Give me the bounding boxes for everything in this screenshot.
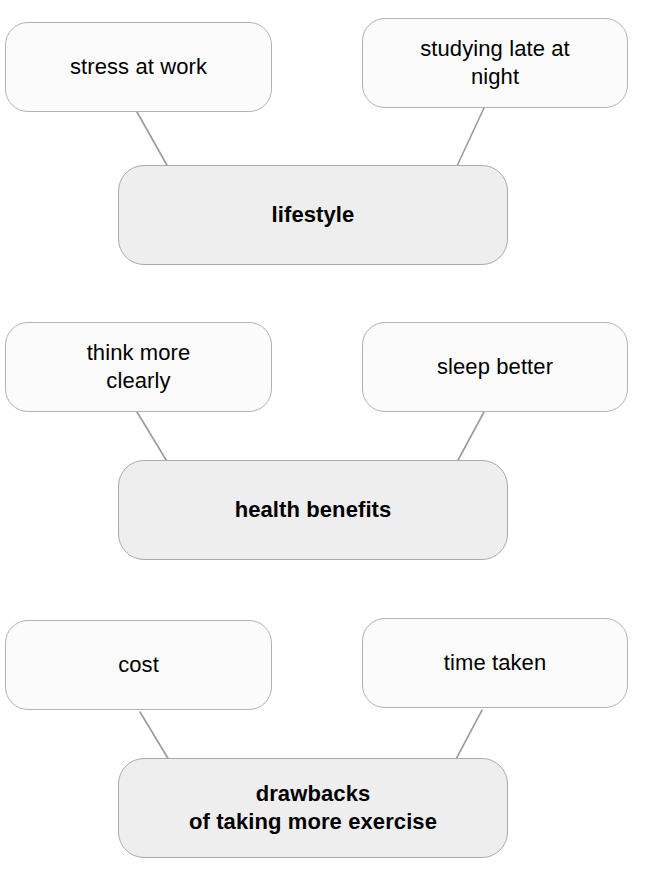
node-label: stress at work: [22, 53, 255, 81]
node-think-more-clearly[interactable]: think more clearly: [5, 322, 272, 412]
node-time-taken[interactable]: time taken: [362, 618, 628, 708]
cluster-health-benefits: think more clearly sleep better health b…: [0, 300, 645, 598]
node-health-benefits[interactable]: health benefits: [118, 460, 508, 560]
node-label: health benefits: [139, 496, 487, 524]
node-sleep-better[interactable]: sleep better: [362, 322, 628, 412]
node-cost[interactable]: cost: [5, 620, 272, 710]
cluster-lifestyle: stress at work studying late at night li…: [0, 0, 645, 300]
mind-map-diagram: stress at work studying late at night li…: [0, 0, 645, 885]
node-label: time taken: [379, 649, 611, 677]
node-label: cost: [22, 651, 255, 679]
node-studying-late-at-night[interactable]: studying late at night: [362, 18, 628, 108]
node-label: studying late at night: [379, 35, 611, 91]
node-label: think more clearly: [22, 339, 255, 395]
node-label: sleep better: [379, 353, 611, 381]
node-label: drawbacks of taking more exercise: [139, 780, 487, 836]
cluster-drawbacks: cost time taken drawbacks of taking more…: [0, 598, 645, 885]
node-lifestyle[interactable]: lifestyle: [118, 165, 508, 265]
node-drawbacks-of-taking-more-exercise[interactable]: drawbacks of taking more exercise: [118, 758, 508, 858]
node-label: lifestyle: [139, 201, 487, 229]
node-stress-at-work[interactable]: stress at work: [5, 22, 272, 112]
